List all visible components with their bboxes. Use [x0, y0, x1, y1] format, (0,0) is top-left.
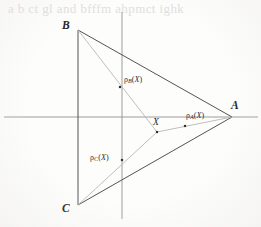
segment-c-to-x	[78, 132, 157, 205]
figure-canvas: a b ct gl and bfffm ahpmct ighk B C A X …	[0, 0, 261, 227]
point-marker-rho-b	[119, 86, 121, 88]
point-marker-rho-c	[121, 159, 123, 161]
triangle-edge-ba	[78, 30, 232, 117]
point-marker-rho-a	[184, 125, 186, 127]
segment-x-to-a	[157, 117, 232, 132]
point-marker-x	[156, 131, 158, 133]
geometry-drawing	[0, 0, 261, 227]
triangle-edge-ca	[78, 117, 232, 205]
